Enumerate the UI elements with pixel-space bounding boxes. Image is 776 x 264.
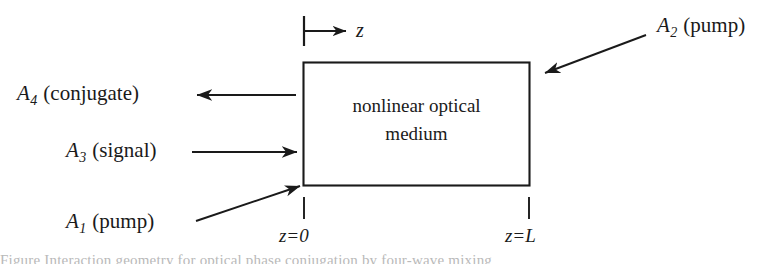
beam-label-a1-pump: A1(pump) <box>66 211 154 236</box>
beam-label-a4-conjugate: A4(conjugate) <box>17 83 139 108</box>
coord-op-right: = <box>512 225 525 246</box>
medium-label-line2: medium <box>303 120 530 148</box>
coordinate-label-z-length: z=L <box>505 226 536 245</box>
medium-label-line1: nonlinear optical <box>303 92 530 120</box>
coordinate-label-z-zero: z=0 <box>279 226 309 245</box>
nonlinear-medium-label: nonlinear optical medium <box>303 92 530 147</box>
beam-role-a3: (signal) <box>86 138 156 162</box>
beam-arrow-a1-pump <box>196 186 300 221</box>
beam-arrow-a2-pump <box>545 35 646 73</box>
beam-role-a4: (conjugate) <box>37 81 139 105</box>
beam-label-a3-signal: A3(signal) <box>66 140 156 165</box>
coord-op-left: = <box>286 225 299 246</box>
beam-role-a1: (pump) <box>86 209 154 233</box>
beam-symbol-a1: A <box>66 209 79 233</box>
beam-symbol-a3: A <box>66 138 79 162</box>
coord-value-right: L <box>525 225 536 246</box>
beam-symbol-a2: A <box>657 13 670 37</box>
beam-symbol-a4: A <box>17 81 30 105</box>
beam-label-a2-pump: A2(pump) <box>657 15 745 40</box>
caption-sliver: Figure Interaction geometry for optical … <box>0 252 776 264</box>
beam-role-a2: (pump) <box>677 13 745 37</box>
figure-container: z nonlinear optical medium A4(conjugate)… <box>0 0 776 264</box>
z-axis-label: z <box>356 20 364 40</box>
coord-value-left: 0 <box>299 225 309 246</box>
